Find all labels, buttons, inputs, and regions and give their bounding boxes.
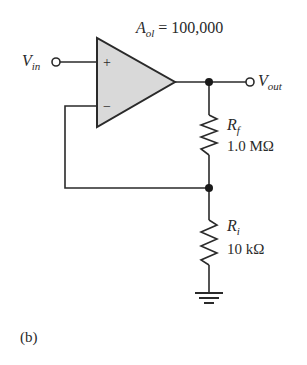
feedback-wire — [65, 106, 209, 188]
input-resistor-value: 10 kΩ — [227, 242, 264, 257]
non-inverting-sign: + — [103, 55, 111, 70]
circuit-diagram: + − — [0, 0, 307, 365]
ri-symbol: R — [227, 217, 237, 234]
open-loop-gain-label: Aol = 100,000 — [136, 20, 223, 36]
input-voltage-label: Vin — [22, 53, 40, 69]
rf-symbol: R — [227, 116, 237, 133]
vout-subscript: out — [268, 80, 282, 92]
vin-symbol: V — [22, 52, 32, 69]
gain-subscript: ol — [146, 27, 155, 39]
output-junction-dot — [205, 78, 213, 86]
input-terminal — [52, 58, 60, 66]
inverting-sign: − — [103, 99, 111, 114]
output-voltage-label: Vout — [258, 73, 282, 89]
feedback-junction-dot — [205, 184, 213, 192]
figure-label: (b) — [20, 330, 38, 345]
rf-subscript: f — [237, 124, 240, 136]
ground-icon — [195, 293, 223, 303]
gain-value: = 100,000 — [154, 19, 223, 36]
vout-symbol: V — [258, 72, 268, 89]
ri-subscript: i — [237, 225, 240, 237]
feedback-resistor-label: Rf — [227, 117, 240, 133]
input-resistor-label: Ri — [227, 218, 240, 234]
feedback-resistor-symbol — [201, 115, 217, 155]
vin-subscript: in — [32, 60, 41, 72]
input-resistor-symbol — [201, 220, 217, 265]
gain-symbol: A — [136, 19, 146, 36]
output-terminal — [246, 78, 254, 86]
feedback-resistor-value: 1.0 MΩ — [227, 139, 274, 154]
